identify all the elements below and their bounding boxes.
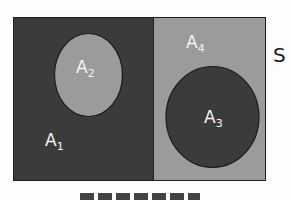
partition-diagram: A1 A2 A3 A4 S xyxy=(0,0,291,200)
label-universe-s: S xyxy=(273,43,286,67)
cropped-caption xyxy=(80,193,200,200)
